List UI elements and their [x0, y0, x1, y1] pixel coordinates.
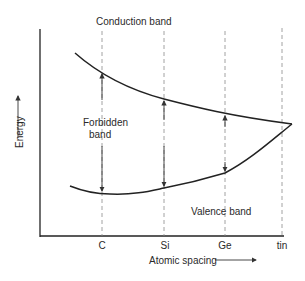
y-axis-label: Energy [14, 116, 25, 148]
x-tick-si: Si [161, 240, 170, 251]
x-tick-c: C [98, 240, 105, 251]
valence-band-label: Valence band [191, 206, 251, 217]
forbidden-band-label-line2: band [89, 129, 111, 140]
conduction-band-curve [75, 53, 292, 124]
forbidden-band-label-line1: Forbidden [83, 117, 128, 128]
conduction-band-label: Conduction band [96, 16, 172, 27]
band-diagram-graphic [0, 0, 305, 281]
x-tick-tin: tin [277, 240, 288, 251]
x-axis-label: Atomic spacing [149, 255, 217, 266]
x-tick-ge: Ge [218, 240, 231, 251]
